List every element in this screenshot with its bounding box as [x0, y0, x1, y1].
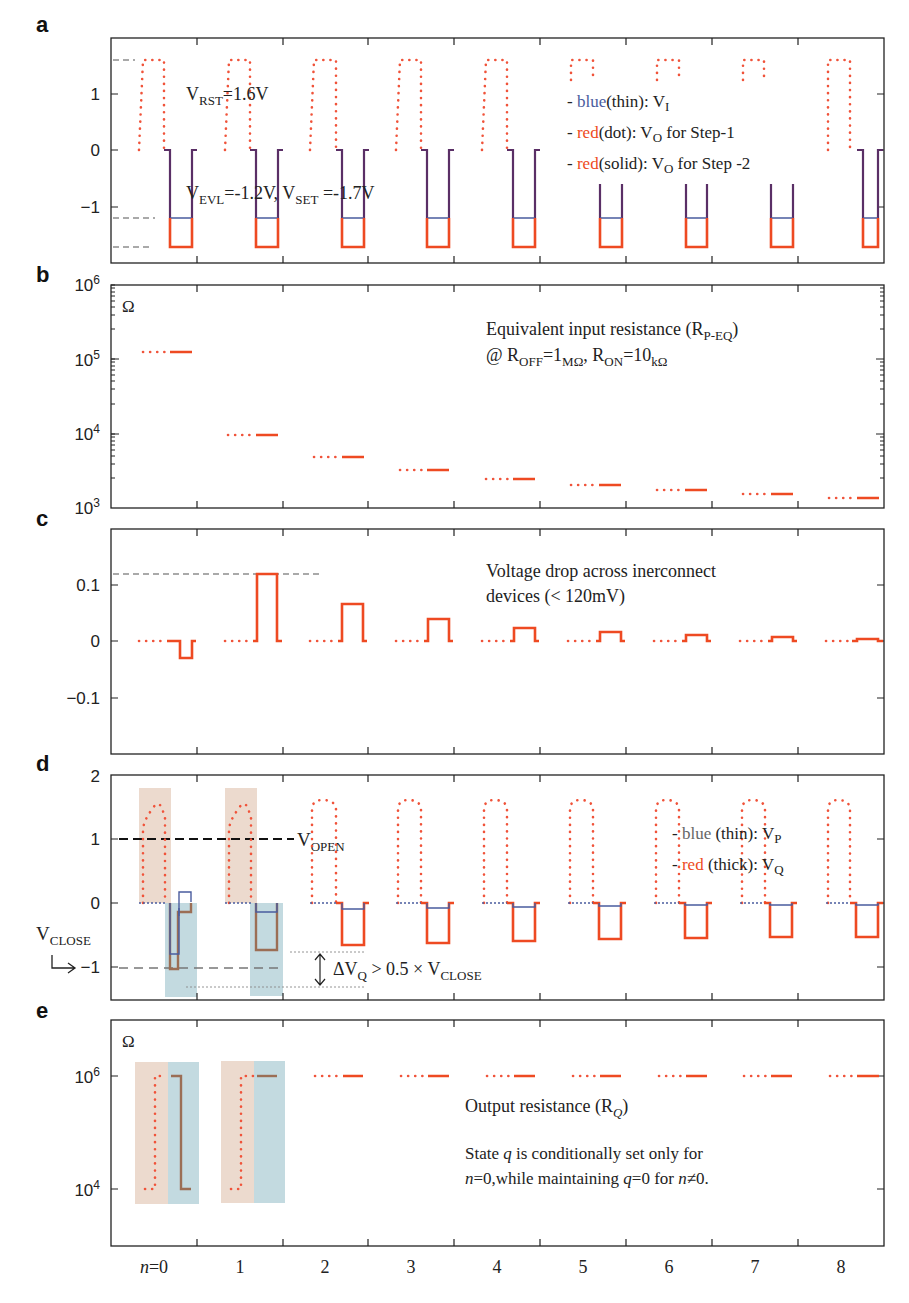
panel-d-ytick: 0 — [91, 894, 100, 913]
panel-b-minor-ticks — [111, 285, 884, 478]
panel-a-ytick: 1 — [91, 85, 100, 104]
panel-b-unit: Ω — [122, 297, 135, 316]
x-axis-labels: n=0 1 2 3 4 5 6 7 8 — [140, 1257, 846, 1277]
panel-b: b 106 105 104 103 Ω Equivalent input res… — [36, 262, 884, 518]
panel-b-rpeq-series — [143, 352, 879, 498]
xtick: 5 — [579, 1257, 588, 1277]
panel-b-title-line2: @ ROFF=1MΩ, RON=10kΩ — [486, 345, 667, 369]
panel-d-ytick: 2 — [91, 767, 100, 786]
panel-c-ytick: 0.1 — [76, 576, 100, 595]
panel-e-step2-band-n1 — [254, 1061, 285, 1203]
panel-c: c 0.1 0 −0.1 Voltage drop across inercon… — [36, 506, 884, 754]
panel-b-ytick: 103 — [74, 496, 100, 518]
xtick: 7 — [751, 1257, 760, 1277]
panel-a-ticks — [111, 38, 884, 263]
xtick: 4 — [493, 1257, 502, 1277]
figure-canvas: a 1 0 −1 — [0, 0, 909, 1303]
panel-e-step1-band-n0 — [135, 1062, 168, 1204]
panel-b-title-line1: Equivalent input resistance (RP-EQ) — [486, 319, 738, 343]
legend-item-vp: - blue (thin): VP — [672, 824, 781, 846]
legend-item-vq: - red (thick): VQ — [672, 855, 784, 877]
panel-b-label: b — [36, 262, 49, 287]
panel-e-ytick: 104 — [74, 1178, 100, 1200]
legend-item-vo-step1: - red(dot): VO for Step-1 — [567, 123, 735, 145]
panel-a-legend: - blue(thin): VI - red(dot): VO for Step… — [567, 92, 750, 176]
xtick-n0: n=0 — [140, 1257, 168, 1277]
panel-d-legend: - blue (thin): VP - red (thick): VQ — [672, 824, 784, 877]
panel-e-label: e — [36, 998, 48, 1023]
panel-c-ytick: −0.1 — [66, 689, 100, 708]
panel-d-label: d — [36, 751, 49, 776]
panel-d-vclose-label: VCLOSE — [36, 923, 91, 948]
panel-e-step1-band-n1 — [221, 1061, 254, 1203]
xtick: 2 — [321, 1257, 330, 1277]
panel-d-vopen-label: VOPEN — [297, 829, 345, 854]
panel-d: d 2 1 0 −1 VOPEN VCLOSE — [36, 751, 884, 1000]
panel-a-vo-step1 — [139, 60, 850, 150]
panel-d-vq-series — [336, 903, 883, 945]
panel-e-note-line2: n=0,while maintaining q=0 for n≠0. — [465, 1169, 709, 1188]
panel-e: e 106 104 Ω Output resistance (RQ) State… — [36, 998, 884, 1277]
panel-d-ytick: 1 — [91, 830, 100, 849]
vclose-arrow-icon — [52, 955, 75, 973]
panel-b-ytick: 105 — [74, 348, 100, 370]
legend-item-vo-step2: - red(solid): VO for Step -2 — [567, 154, 750, 176]
panel-b-ytick: 104 — [74, 422, 100, 444]
panel-e-unit: Ω — [122, 1032, 135, 1051]
panel-a-ytick: −1 — [81, 198, 100, 217]
xtick: 1 — [236, 1257, 245, 1277]
double-arrow-icon — [315, 954, 325, 985]
panel-a-vevl-vset-annotation: VEVL=-1.2V, VSET =-1.7V — [186, 183, 375, 207]
panel-d-ytick: −1 — [81, 958, 100, 977]
panel-e-note-line1: State q is conditionally set only for — [465, 1144, 703, 1163]
panel-a-level-dashes — [113, 60, 155, 247]
panel-a-vrst-annotation: VRST=1.6V — [186, 84, 269, 108]
panel-c-title-line1: Voltage drop across inerconnect — [486, 561, 716, 581]
panel-a: a 1 0 −1 — [36, 12, 884, 263]
panel-a-ytick: 0 — [91, 141, 100, 160]
legend-item-vi: - blue(thin): VI — [567, 92, 669, 114]
panel-e-step2-band-n0 — [168, 1062, 199, 1204]
panel-a-axes — [111, 38, 884, 263]
xtick: 3 — [407, 1257, 416, 1277]
xtick: 8 — [837, 1257, 846, 1277]
panel-b-ytick: 106 — [74, 273, 100, 295]
panel-c-label: c — [36, 506, 48, 531]
panel-d-delta-annotation: ΔVQ > 0.5 × VCLOSE — [333, 959, 482, 983]
panel-c-title-line2: devices (< 120mV) — [486, 586, 625, 607]
panel-e-ytick: 106 — [74, 1065, 100, 1087]
panel-c-ytick: 0 — [91, 632, 100, 651]
panel-e-title: Output resistance (RQ) — [465, 1096, 628, 1120]
xtick: 6 — [665, 1257, 674, 1277]
panel-a-label: a — [36, 12, 49, 37]
